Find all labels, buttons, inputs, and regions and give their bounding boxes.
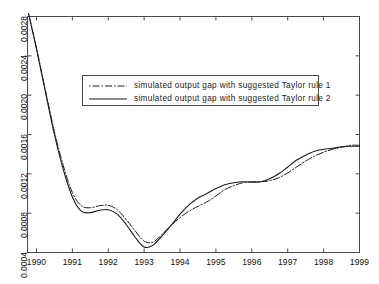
y-tick-label: 0.0020 xyxy=(19,94,29,120)
legend-item-rule-2: simulated output gap with suggested Tayl… xyxy=(83,92,318,105)
x-tick-label: 1992 xyxy=(99,257,118,267)
plot-frame xyxy=(28,17,360,253)
y-tick-label: 0.0012 xyxy=(19,173,29,199)
series-line-2 xyxy=(29,14,360,248)
y-axis-ticks xyxy=(28,17,360,253)
chart-canvas xyxy=(0,0,379,284)
legend-swatch-dash-dot xyxy=(88,81,128,91)
y-tick-label: 0.0024 xyxy=(19,55,29,81)
data-series-layer xyxy=(29,14,360,248)
figure-container: 0.00040.00080.00120.00160.00200.00240.00… xyxy=(0,0,379,284)
y-tick-label: 0.0008 xyxy=(19,212,29,238)
x-tick-label: 1998 xyxy=(314,257,333,267)
legend-item-rule-1: simulated output gap with suggested Tayl… xyxy=(83,79,318,92)
y-tick-label: 0.0016 xyxy=(19,134,29,160)
x-axis-ticks xyxy=(36,17,359,253)
legend-swatch-solid xyxy=(88,94,128,104)
x-tick-label: 1996 xyxy=(242,257,261,267)
x-tick-label: 1997 xyxy=(278,257,297,267)
legend-label-rule-1: simulated output gap with suggested Tayl… xyxy=(134,81,331,90)
legend-label-rule-2: simulated output gap with suggested Tayl… xyxy=(134,94,331,103)
x-tick-label: 1995 xyxy=(206,257,225,267)
x-tick-label: 1999 xyxy=(350,257,369,267)
chart-legend: simulated output gap with suggested Tayl… xyxy=(82,75,319,106)
x-tick-label: 1991 xyxy=(63,257,82,267)
y-tick-label: 0.0028 xyxy=(19,16,29,42)
x-tick-label: 1993 xyxy=(134,257,153,267)
x-tick-label: 1990 xyxy=(27,257,46,267)
x-tick-label: 1994 xyxy=(170,257,189,267)
